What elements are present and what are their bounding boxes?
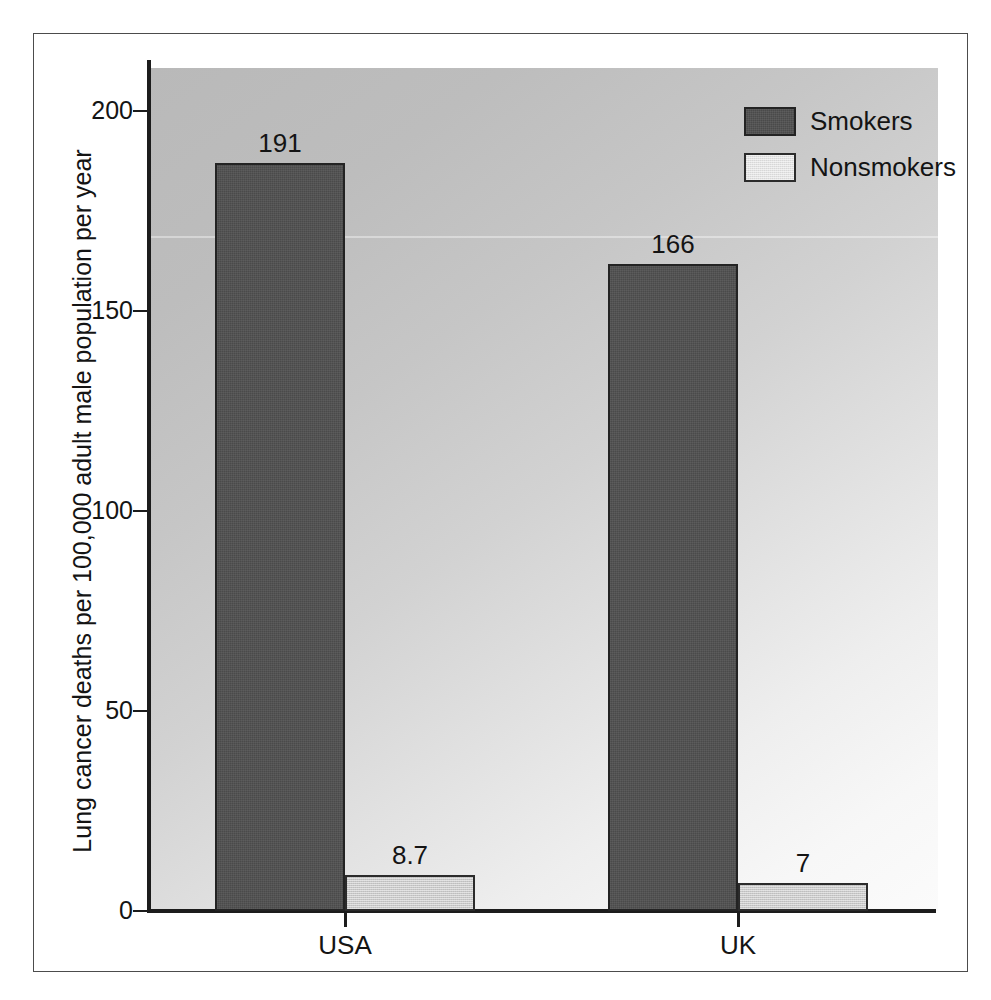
- y-tick-50: [133, 710, 148, 712]
- y-tick-150: [133, 310, 148, 312]
- bar-usa-smokers: [215, 163, 345, 911]
- y-axis-line: [147, 60, 151, 913]
- legend-item-smokers: Smokers: [744, 104, 944, 150]
- legend-label-smokers: Smokers: [810, 104, 913, 138]
- y-tick-label-100-wrap: 100: [0, 498, 133, 523]
- legend-label-nonsmokers: Nonsmokers: [810, 150, 956, 184]
- legend-item-nonsmokers: Nonsmokers: [744, 150, 944, 196]
- y-tick-100: [133, 510, 148, 512]
- bar-uk-nonsmokers: [738, 883, 868, 911]
- bar-chart: 0 50 100 150 200 Lung cancer deaths per …: [0, 0, 991, 1000]
- legend-swatch-smokers-icon: [744, 107, 796, 136]
- bar-value-uk-smokers: 166: [583, 229, 763, 259]
- y-axis-title: Lung cancer deaths per 100,000 adult mal…: [68, 121, 96, 881]
- y-tick-label-150-wrap: 150: [0, 298, 133, 323]
- bar-value-usa-smokers: 191: [190, 128, 370, 158]
- x-axis-label-usa: USA: [245, 930, 445, 960]
- legend-swatch-nonsmokers-icon: [744, 153, 796, 182]
- x-tick-usa: [344, 911, 347, 927]
- x-tick-uk: [737, 911, 740, 927]
- legend: Smokers Nonsmokers: [744, 104, 944, 196]
- y-tick-label-50-wrap: 50: [0, 698, 133, 723]
- y-tick-200: [133, 110, 148, 112]
- y-tick-label-0-wrap: 0: [0, 898, 133, 923]
- bar-value-uk-nonsmokers: 7: [713, 848, 893, 878]
- y-tick-label-0: 0: [13, 898, 133, 923]
- y-tick-label-200: 200: [13, 98, 133, 123]
- bar-value-usa-nonsmokers: 8.7: [320, 840, 500, 870]
- y-tick-label-200-wrap: 200: [0, 98, 133, 123]
- bar-usa-nonsmokers: [345, 875, 475, 911]
- bar-uk-smokers: [608, 264, 738, 911]
- y-tick-0: [133, 910, 148, 912]
- x-axis-label-uk: UK: [638, 930, 838, 960]
